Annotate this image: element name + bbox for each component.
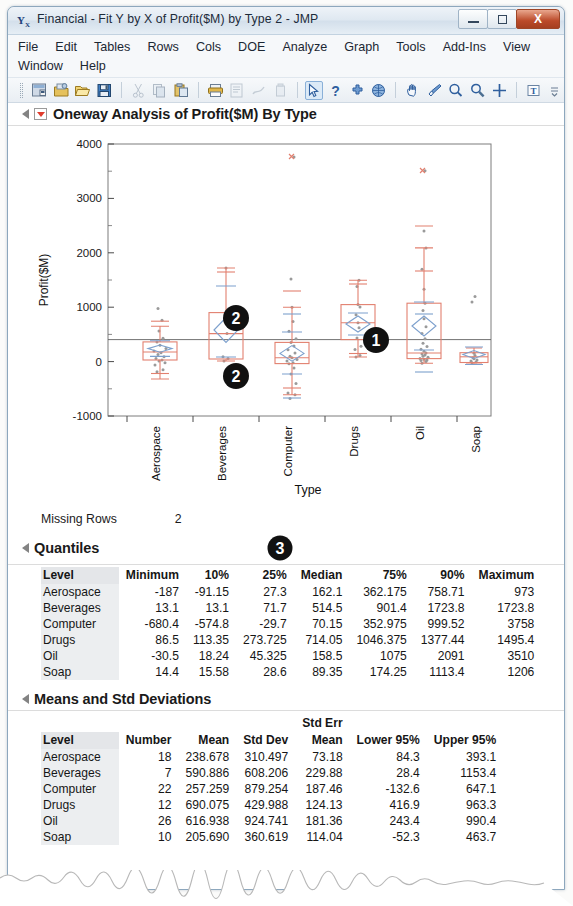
window-controls: X	[459, 9, 560, 29]
overflow-icon[interactable]	[545, 81, 564, 100]
cell-75: 174.25	[349, 664, 413, 680]
open-recent-icon[interactable]	[52, 81, 71, 100]
minimize-button[interactable]	[458, 9, 488, 29]
title-bar[interactable]: YX Financial - Fit Y by X of Profit($M) …	[8, 7, 564, 35]
cell-minimum: -30.5	[119, 648, 186, 664]
print-icon[interactable]	[206, 81, 225, 100]
quantiles-section-header[interactable]: Quantiles 3	[8, 532, 564, 565]
script-icon	[249, 81, 268, 100]
cell-75: 352.975	[349, 616, 413, 632]
oneway-plot-svg[interactable]: 4000 3000 2000 1000 0 -1000 Profit($M	[8, 126, 564, 506]
means-title: Means and Std Deviations	[34, 691, 211, 707]
menu-item-tools[interactable]: Tools	[396, 38, 434, 56]
ytick-4000: 4000	[76, 138, 102, 150]
menu-item-view[interactable]: View	[503, 38, 539, 56]
delete-icon	[271, 81, 290, 100]
annotate-text-icon[interactable]: T	[524, 81, 543, 100]
cell-std-err-mean: 229.88	[295, 765, 349, 781]
oneway-chart[interactable]: 4000 3000 2000 1000 0 -1000 Profit($M	[8, 126, 564, 506]
cell-upper-95: 963.3	[427, 797, 504, 813]
svg-text:3: 3	[276, 540, 285, 557]
cell-10: -574.8	[186, 616, 236, 632]
disclosure-triangle-icon[interactable]	[22, 109, 29, 119]
save-icon[interactable]	[95, 81, 114, 100]
cell-lower-95: 28.4	[350, 765, 427, 781]
x-axis-label: Type	[294, 483, 321, 497]
maximize-button[interactable]	[487, 9, 517, 29]
close-button[interactable]: X	[516, 9, 560, 29]
means-col-number: Number	[119, 732, 179, 749]
crosshair-icon[interactable]	[490, 81, 509, 100]
toolbar-grip[interactable]	[20, 83, 23, 98]
menu-item-cols[interactable]: Cols	[196, 38, 230, 56]
cell-minimum: -680.4	[119, 616, 186, 632]
cell-median: 158.5	[294, 648, 350, 664]
menu-item-tables[interactable]: Tables	[94, 38, 139, 56]
cell-minimum: 86.5	[119, 632, 186, 648]
cell-25: 27.3	[236, 584, 294, 600]
jmp-yx-icon: YX	[17, 13, 32, 28]
arrow-select-icon[interactable]	[305, 81, 324, 100]
table-row: Soap 10 205.690 360.619 114.04 -52.3 463…	[41, 829, 503, 845]
menu-item-help[interactable]: Help	[80, 57, 115, 75]
toolbar-separator	[121, 82, 122, 98]
quantiles-col-level: Level	[41, 567, 119, 584]
brush-icon[interactable]	[425, 81, 444, 100]
menu-item-edit[interactable]: Edit	[55, 38, 86, 56]
oneway-section-header[interactable]: Oneway Analysis of Profit($M) By Type	[8, 103, 564, 126]
menu-item-window[interactable]: Window	[18, 57, 72, 75]
menu-item-rows[interactable]: Rows	[147, 38, 188, 56]
cell-minimum: 14.4	[119, 664, 186, 680]
cell-lower-95: 416.9	[350, 797, 427, 813]
red-triangle-menu-icon[interactable]	[34, 108, 47, 120]
cell-upper-95: 1153.4	[427, 765, 504, 781]
disclosure-triangle-icon-means[interactable]	[22, 694, 29, 704]
crosshair-move-icon[interactable]	[348, 81, 367, 100]
help-question-icon[interactable]: ?	[326, 81, 345, 100]
xtick-aerospace: Aerospace	[150, 426, 162, 481]
quantiles-col-minimum: Minimum	[119, 567, 186, 584]
means-section-header[interactable]: Means and Std Deviations	[8, 688, 564, 711]
cell-std-dev: 879.254	[236, 781, 295, 797]
svg-text:2: 2	[232, 368, 241, 385]
menu-item-graph[interactable]: Graph	[344, 38, 388, 56]
cell-lower-95: -132.6	[350, 781, 427, 797]
cell-level: Aerospace	[41, 749, 119, 765]
cell-25: 71.7	[236, 600, 294, 616]
grabber-target-icon[interactable]	[370, 81, 389, 100]
svg-text:T: T	[530, 85, 536, 95]
svg-text:?: ?	[331, 82, 340, 98]
cell-level: Computer	[41, 616, 119, 632]
cell-std-err-mean: 114.04	[295, 829, 349, 845]
cell-number: 26	[119, 813, 179, 829]
menu-item-doe[interactable]: DOE	[238, 38, 274, 56]
quantiles-col-75: 75%	[349, 567, 413, 584]
cell-minimum: 13.1	[119, 600, 186, 616]
quantiles-title: Quantiles	[34, 540, 99, 556]
cell-75: 901.4	[349, 600, 413, 616]
cell-25: 45.325	[236, 648, 294, 664]
menu-item-add-ins[interactable]: Add-Ins	[443, 38, 495, 56]
hand-icon[interactable]	[403, 81, 422, 100]
menu-item-file[interactable]: File	[18, 38, 47, 56]
toolbar: ?	[8, 77, 564, 103]
table-row: Computer 22 257.259 879.254 187.46 -132.…	[41, 781, 503, 797]
quantiles-col-90: 90%	[414, 567, 472, 584]
menu-item-analyze[interactable]: Analyze	[282, 38, 336, 56]
zoom-in-icon[interactable]	[468, 81, 487, 100]
magnifier-icon[interactable]	[447, 81, 466, 100]
table-row: Computer -680.4 -574.8 -29.7 70.15 352.9…	[41, 616, 541, 632]
cell-level: Soap	[41, 829, 119, 845]
means-col-std-dev: Std Dev	[236, 732, 295, 749]
paste-icon[interactable]	[172, 81, 191, 100]
xtick-drugs: Drugs	[348, 426, 360, 457]
cell-number: 22	[119, 781, 179, 797]
cell-upper-95: 463.7	[427, 829, 504, 845]
cell-90: 2091	[414, 648, 472, 664]
callout-badge-3: 3	[267, 535, 293, 561]
disclosure-triangle-icon-quantiles[interactable]	[22, 543, 29, 553]
open-folder-icon[interactable]	[73, 81, 92, 100]
new-data-table-icon[interactable]	[30, 81, 49, 100]
cell-level: Soap	[41, 664, 119, 680]
quantiles-col-25: 25%	[236, 567, 294, 584]
